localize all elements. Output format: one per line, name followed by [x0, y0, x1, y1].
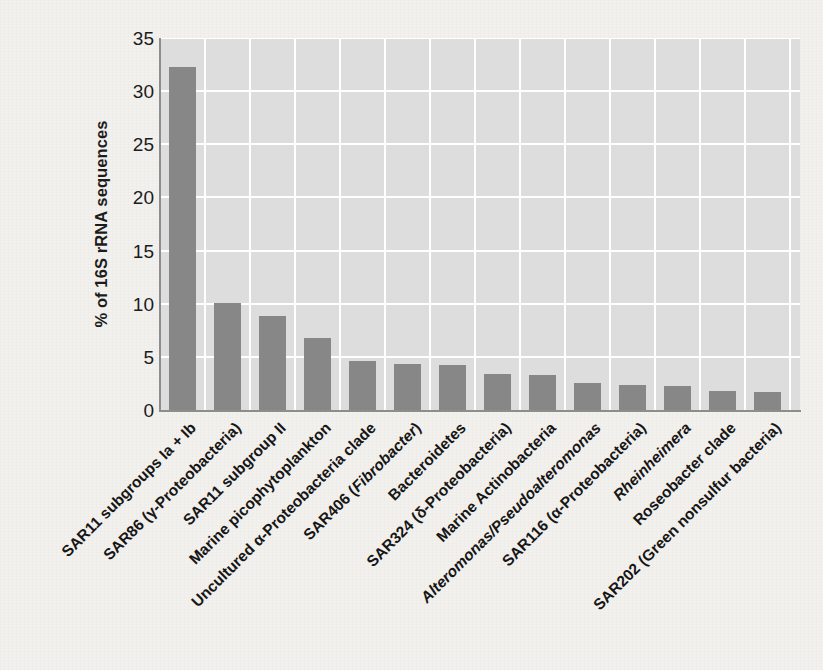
- bar[interactable]: [619, 385, 646, 411]
- bar-chart-figure: % of 16S rRNA sequences 05101520253035 S…: [0, 0, 823, 670]
- y-tick-label: 30: [133, 82, 154, 101]
- plot-area: [161, 38, 800, 410]
- bar[interactable]: [754, 392, 781, 410]
- bar[interactable]: [709, 391, 736, 410]
- bar[interactable]: [394, 364, 421, 410]
- bar[interactable]: [529, 375, 556, 410]
- x-tick-label[interactable]: Bacteroidetes: [384, 419, 469, 504]
- bar[interactable]: [169, 67, 196, 410]
- bar[interactable]: [439, 365, 466, 410]
- y-tick-label: 35: [133, 29, 154, 48]
- bar[interactable]: [304, 338, 331, 410]
- y-tick-label: 0: [143, 401, 154, 420]
- x-tick-label[interactable]: Rheinheimera: [609, 419, 694, 504]
- bar[interactable]: [484, 374, 511, 410]
- bar[interactable]: [574, 383, 601, 410]
- y-tick-label: 10: [133, 294, 154, 313]
- bar[interactable]: [259, 316, 286, 410]
- y-tick-label: 5: [143, 347, 154, 366]
- y-tick-label: 20: [133, 188, 154, 207]
- bar[interactable]: [349, 361, 376, 410]
- y-tick-label: 15: [133, 241, 154, 260]
- bar[interactable]: [664, 386, 691, 410]
- x-axis-line: [159, 410, 801, 412]
- y-axis-tick-labels: 05101520253035: [110, 0, 154, 670]
- bars-layer: [161, 38, 800, 410]
- y-tick-label: 25: [133, 135, 154, 154]
- y-axis-line: [159, 38, 161, 412]
- bar[interactable]: [214, 303, 241, 410]
